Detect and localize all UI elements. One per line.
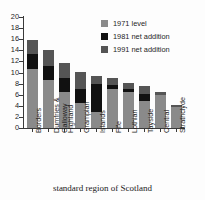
bar-segment — [75, 72, 86, 89]
x-axis-tick — [176, 129, 177, 132]
y-axis-tick — [19, 84, 23, 85]
bar-segment — [43, 66, 54, 79]
legend-swatch-1981-net-addition — [101, 33, 108, 40]
x-axis-title: standard region of Scotland — [0, 183, 205, 193]
bar-segment — [91, 84, 102, 113]
y-axis-tick-label: 18 — [1, 24, 19, 31]
y-axis-tick — [19, 61, 23, 62]
legend-label: 1981 net addition — [113, 33, 170, 40]
x-axis-category-label: Highland — [67, 105, 75, 133]
x-axis-tick — [112, 129, 113, 132]
legend-label: 1991 net addition — [113, 46, 170, 53]
bar-segment — [27, 40, 38, 54]
x-axis-category-label: Central — [163, 110, 171, 133]
x-axis-tick — [128, 129, 129, 132]
y-axis-tick-label: 10 — [1, 69, 19, 76]
bar-segment — [27, 54, 38, 68]
x-axis-tick — [80, 129, 81, 132]
x-axis-category-label: Tayside — [147, 109, 155, 133]
x-axis-tick — [48, 129, 49, 132]
y-axis-labels: 02468101214161820 — [0, 0, 19, 200]
bar-segment — [43, 50, 54, 66]
y-axis-tick-label: 16 — [1, 35, 19, 42]
chart-legend: 1971 level 1981 net addition 1991 net ad… — [101, 18, 201, 57]
y-axis-tick-label: 6 — [1, 91, 19, 98]
x-axis-category-label: Borders — [35, 108, 43, 133]
bar-segment — [107, 78, 118, 85]
x-axis-tick — [32, 129, 33, 132]
legend-item: 1991 net addition — [101, 44, 201, 55]
bar-segment — [139, 86, 150, 94]
x-axis-tick — [160, 129, 161, 132]
y-axis-tick-label: 2 — [1, 113, 19, 120]
x-axis-tick — [96, 129, 97, 132]
x-axis-category-label: Islands — [99, 110, 107, 133]
legend-swatch-1991-net-addition — [101, 46, 108, 53]
y-axis-tick — [19, 50, 23, 51]
x-axis-category-label: Strathclyde — [179, 97, 187, 133]
y-axis-tick — [19, 28, 23, 29]
y-axis-tick — [19, 39, 23, 40]
y-axis-tick-label: 20 — [1, 13, 19, 20]
legend-item: 1971 level — [101, 18, 201, 29]
x-axis-tick — [144, 129, 145, 132]
bar-segment — [139, 94, 150, 102]
bar-segment — [59, 78, 70, 92]
y-axis-tick-label: 14 — [1, 46, 19, 53]
x-axis-category-label: Grampian — [83, 101, 91, 133]
bar-segment — [59, 63, 70, 78]
y-axis-tick — [19, 117, 23, 118]
y-axis-tick — [19, 95, 23, 96]
y-axis-tick — [19, 17, 23, 18]
y-axis-tick — [19, 106, 23, 107]
x-axis-category-label: Lothian — [131, 109, 139, 133]
bar-segment — [91, 76, 102, 83]
y-axis-tick-label: 12 — [1, 57, 19, 64]
legend-swatch-1971-level — [101, 20, 108, 27]
y-axis-tick — [19, 73, 23, 74]
bar-chart: 02468101214161820 BordersDumfries & Gall… — [0, 0, 205, 200]
legend-item: 1981 net addition — [101, 31, 201, 42]
y-axis-tick-label: 0 — [1, 124, 19, 131]
y-axis-tick-label: 8 — [1, 80, 19, 87]
x-axis-category-label: Fife — [115, 121, 123, 133]
legend-label: 1971 level — [113, 20, 147, 27]
y-axis-tick-label: 4 — [1, 102, 19, 109]
